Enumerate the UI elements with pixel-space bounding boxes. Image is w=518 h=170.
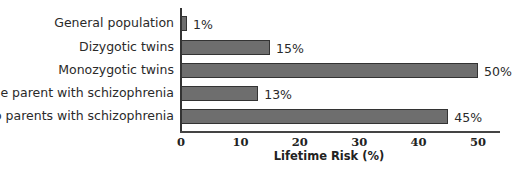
x-tick-label: 30: [351, 135, 367, 149]
x-tick-label: 40: [411, 135, 427, 149]
bar: [181, 16, 187, 31]
value-label: 50%: [484, 64, 512, 80]
x-tick-label: 0: [177, 135, 185, 149]
category-label: Monozygotic twins: [58, 62, 174, 78]
category-label: General population: [54, 15, 174, 31]
value-label: 1%: [193, 17, 213, 33]
bar: [181, 86, 258, 101]
category-label: One parent with schizophrenia: [0, 85, 174, 101]
value-label: 45%: [454, 110, 482, 126]
value-label: 13%: [264, 87, 292, 103]
category-label: Dizygotic twins: [79, 39, 174, 55]
x-tick-label: 50: [470, 135, 486, 149]
x-tick-label: 20: [292, 135, 308, 149]
bar: [181, 40, 270, 55]
x-tick-label: 10: [232, 135, 248, 149]
x-axis-line: [180, 131, 500, 133]
bar: [181, 109, 448, 124]
bar: [181, 63, 478, 78]
value-label: 15%: [276, 41, 304, 57]
x-axis-title: Lifetime Risk (%): [274, 149, 385, 163]
category-label: Two parents with schizophrenia: [0, 108, 174, 124]
